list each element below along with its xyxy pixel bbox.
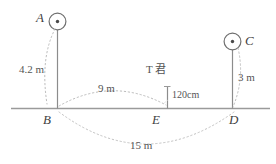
diagram-canvas: A B C D E 4.2 m 9 m 120cm 3 m 15 m T 君 xyxy=(0,0,276,164)
measure-label-ab: 4.2 m xyxy=(19,64,44,75)
point-label-b: B xyxy=(43,113,51,126)
point-label-a: A xyxy=(36,11,44,24)
point-label-e: E xyxy=(152,113,160,126)
measure-label-person-height: 120cm xyxy=(172,90,199,100)
measure-label-bd: 15 m xyxy=(130,140,152,151)
measure-label-cd: 3 m xyxy=(238,72,255,83)
measure-arc-ab xyxy=(45,29,55,104)
measure-label-be: 9 m xyxy=(98,83,115,94)
circle-dot-marker-c xyxy=(224,33,241,50)
person-name-label: T 君 xyxy=(146,64,166,75)
circle-dot-marker-a xyxy=(49,13,66,30)
point-label-d: D xyxy=(229,113,238,126)
point-label-c: C xyxy=(245,34,254,47)
